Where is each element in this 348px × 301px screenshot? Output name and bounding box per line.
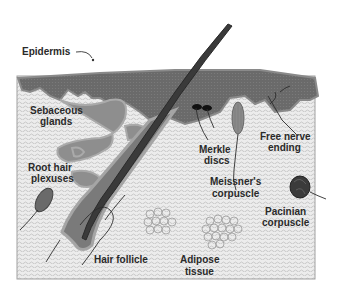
label-free-nerve-2: ending [268, 142, 301, 153]
label-sebaceous-2: glands [40, 116, 72, 127]
label-sebaceous-1: Sebaceous [30, 105, 83, 116]
label-root-hair-2: plexuses [31, 173, 74, 184]
label-epidermis: Epidermis [22, 46, 70, 57]
label-hair-follicle: Hair follicle [94, 254, 148, 265]
merkle-disc [192, 104, 202, 110]
label-meissner-1: Meissner's [210, 176, 261, 187]
label-meissner-2: corpuscle [212, 188, 259, 199]
label-merkle-2: discs [204, 155, 230, 166]
label-adipose-1: Adipose [180, 254, 219, 265]
label-pacinian-2: corpuscle [262, 217, 309, 228]
label-pacinian-1: Pacinian [265, 206, 306, 217]
epidermis-pointer [76, 52, 92, 58]
label-root-hair-1: Root hair [28, 162, 72, 173]
skin-diagram: Epidermis Sebaceous glands Merkle discs … [0, 0, 348, 301]
label-merkle-1: Merkle [199, 144, 231, 155]
label-free-nerve-1: Free nerve [260, 131, 311, 142]
label-adipose-2: tissue [185, 266, 214, 277]
